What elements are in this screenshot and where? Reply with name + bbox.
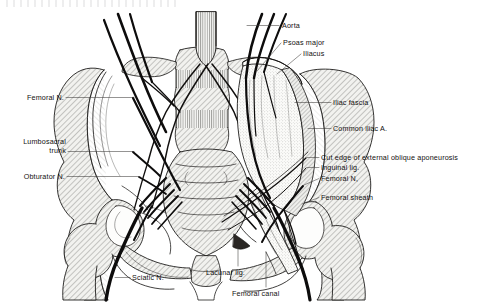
- label-aorta: Aorta: [282, 21, 300, 30]
- label-iliacus: Iliacus: [303, 49, 324, 58]
- figure-page: Aorta Psoas major Iliacus Iliac fascia C…: [0, 0, 489, 307]
- label-lumbosacral-trunk-line1: Lumbosacral: [0, 137, 66, 146]
- label-sciatic-n: Sciatic N.: [132, 273, 164, 282]
- label-common-iliac-a: Common iliac A.: [333, 124, 387, 133]
- label-femoral-n-left: Femoral N.: [0, 93, 64, 102]
- label-inguinal-lig: Inguinal lig.: [321, 163, 359, 172]
- label-psoas-major: Psoas major: [283, 38, 325, 47]
- label-lacunar-lig: Lacunar lig.: [206, 268, 245, 277]
- label-femoral-n-right: Femoral N,: [321, 174, 358, 183]
- label-obturator-n: Obturator N.: [0, 172, 65, 181]
- label-cut-edge-external-oblique-aponeurosis: Cut edge of external oblique aponeurosis: [321, 153, 458, 162]
- label-femoral-sheath: Femoral sheath: [321, 193, 373, 202]
- label-lumbosacral-trunk-line2: trunk: [0, 146, 66, 155]
- label-iliac-fascia: Iliac fascia: [333, 98, 368, 107]
- label-femoral-canal: Femoral canal: [232, 289, 280, 298]
